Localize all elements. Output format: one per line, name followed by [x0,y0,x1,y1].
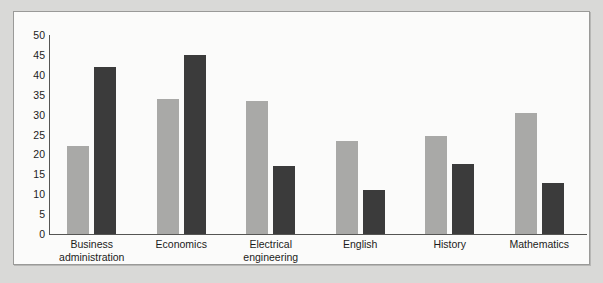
bar[interactable] [67,146,89,234]
x-tick-label: Businessadministration [45,238,138,263]
chart-panel: 50454035302520151050 Businessadministrat… [13,11,590,265]
bar[interactable] [184,55,206,234]
bar[interactable] [425,136,447,234]
bar-group [425,35,474,234]
bar[interactable] [542,183,564,234]
y-tick-label: 20 [18,149,45,159]
x-tick-label: History [403,238,496,251]
x-axis-tick-labels: BusinessadministrationEconomicsElectrica… [50,238,587,266]
bar[interactable] [363,190,385,234]
bar-group [67,35,116,234]
y-tick-label: 40 [18,70,45,80]
bar[interactable] [452,164,474,234]
y-tick-label: 45 [18,50,45,60]
x-axis-line [49,234,587,235]
y-tick-label: 5 [18,209,45,219]
bar[interactable] [273,166,295,234]
y-tick-label: 10 [18,189,45,199]
bar[interactable] [336,141,358,234]
bar[interactable] [515,113,537,234]
bar-group [246,35,295,234]
y-tick-label: 0 [18,229,45,239]
y-tick-label: 50 [18,30,45,40]
bar-group [515,35,564,234]
x-tick-label: Mathematics [493,238,586,251]
x-tick-label: English [314,238,407,251]
y-tick-label: 25 [18,130,45,140]
bar[interactable] [157,99,179,234]
bar[interactable] [246,101,268,234]
x-tick-label: Economics [135,238,228,251]
page-root: 50454035302520151050 Businessadministrat… [0,0,603,283]
x-tick-label: Electricalengineering [224,238,317,263]
y-axis-tick-labels: 50454035302520151050 [18,12,46,266]
bar-group [336,35,385,234]
bar-groups [50,35,587,234]
bar-group [157,35,206,234]
y-tick-label: 15 [18,169,45,179]
y-tick-label: 35 [18,90,45,100]
y-tick-label: 30 [18,110,45,120]
bar[interactable] [94,67,116,234]
